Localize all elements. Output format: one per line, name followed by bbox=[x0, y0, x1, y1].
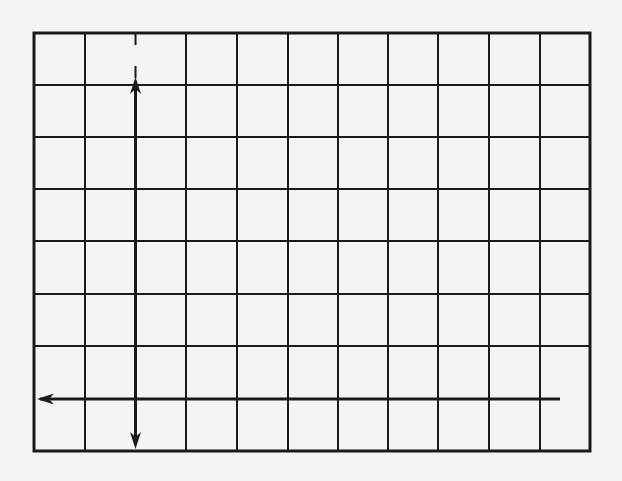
grid-lines bbox=[34, 33, 590, 451]
circle-diagram bbox=[0, 0, 622, 481]
y-axis bbox=[130, 77, 141, 449]
x-axis bbox=[37, 394, 560, 405]
